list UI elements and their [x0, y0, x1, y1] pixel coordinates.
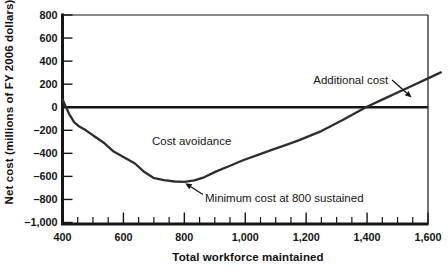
net-cost-curve	[63, 72, 441, 181]
y-tick-label: –200	[33, 124, 57, 136]
x-tick-label: 400	[53, 231, 71, 243]
x-tick-label: 600	[114, 231, 132, 243]
x-axis-title: Total workforce maintained	[172, 251, 323, 263]
y-tick-label: 800	[39, 9, 57, 21]
y-tick-label: –600	[33, 170, 57, 182]
x-tick-label: 1,200	[293, 231, 320, 243]
y-tick-label: 400	[39, 55, 57, 67]
y-tick-label: 600	[39, 32, 57, 44]
y-tick-label: –800	[33, 193, 57, 205]
y-tick-label: 0	[51, 101, 57, 113]
x-tick-label: 800	[175, 231, 193, 243]
chart-plot-area: 4006008001,0001,2001,4001,60080060040020…	[0, 0, 448, 270]
x-tick-label: 1,400	[354, 231, 381, 243]
y-tick-label: –400	[33, 147, 57, 159]
x-tick-label: 1,600	[414, 231, 441, 243]
annotation-arrow-minimum-cost-head	[185, 183, 192, 189]
annotation-arrow-minimum-cost-shaft	[191, 187, 203, 195]
x-tick-label: 1,000	[232, 231, 259, 243]
y-tick-label: 200	[39, 78, 57, 90]
y-tick-label: –1,000	[24, 216, 57, 228]
annotation-label-minimum-cost: Minimum cost at 800 sustained	[205, 192, 364, 204]
annotation-label-additional-cost: Additional cost	[313, 74, 389, 86]
figure: Net cost (millions of FY 2006 dollars) 4…	[0, 0, 448, 270]
annotation-label-cost-avoidance: Cost avoidance	[152, 135, 231, 147]
